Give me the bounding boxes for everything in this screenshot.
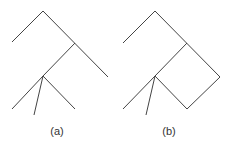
tree-diagrams [0,0,230,151]
edge [123,11,155,43]
tree-a [12,11,108,115]
edge [187,77,220,109]
edge [146,76,155,115]
label-a: (a) [50,125,63,137]
edge [155,76,187,109]
edge [12,11,43,42]
edge [123,76,155,109]
edge [43,76,75,109]
tree-b [123,11,220,115]
edge [43,11,108,77]
edge [43,43,75,76]
edge [34,76,43,115]
edge [12,76,43,109]
label-b: (b) [162,125,175,137]
edge [155,43,187,76]
edge [155,11,220,77]
